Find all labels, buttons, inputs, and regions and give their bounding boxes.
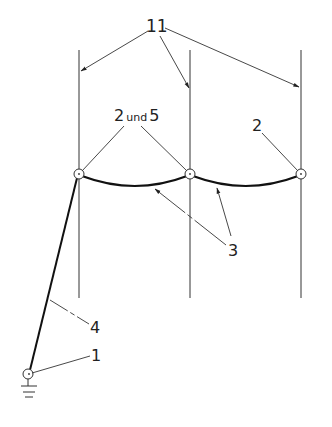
label-1: 1 bbox=[91, 346, 101, 365]
label-3: 3 bbox=[228, 241, 238, 260]
ground-symbol-icon bbox=[21, 379, 37, 397]
label-4-leader bbox=[50, 300, 89, 324]
label-2-und-5: 2und5 bbox=[114, 106, 159, 125]
nodes bbox=[23, 169, 306, 379]
label-1-leader bbox=[32, 356, 90, 373]
guy-line bbox=[30, 178, 77, 370]
label-4: 4 bbox=[90, 318, 100, 337]
cable-right bbox=[193, 176, 298, 186]
label-2-leader bbox=[262, 133, 298, 171]
diagram-canvas: 11 2und5 2 3 4 bbox=[0, 0, 332, 427]
label-2: 2 bbox=[252, 116, 262, 135]
label-3-leaders bbox=[155, 188, 231, 245]
cable-left bbox=[82, 176, 187, 186]
label-11: 11 bbox=[146, 16, 168, 36]
node-ground bbox=[23, 369, 33, 379]
label-2-und-5-leaders bbox=[82, 126, 187, 171]
